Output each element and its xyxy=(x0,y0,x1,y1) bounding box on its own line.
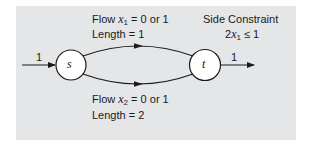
upper-arc-length-label: Length = 1 xyxy=(92,28,144,41)
input-flow-label: 1 xyxy=(36,51,42,64)
lower-arc-flow-label: Flow x2 = 0 or 1 xyxy=(92,93,169,109)
upper-arc-flow-label: Flow x1 = 0 or 1 xyxy=(92,13,169,29)
lower-arc-arrow-icon xyxy=(134,81,143,87)
side-constraint-title: Side Constraint xyxy=(203,13,278,26)
lower-arc-length-label: Length = 2 xyxy=(92,109,144,122)
node-t-label: t xyxy=(202,58,205,71)
node-s-label: s xyxy=(67,58,72,71)
output-flow-label: 1 xyxy=(231,51,237,64)
side-constraint-expression: 2x1 ≤ 1 xyxy=(225,28,259,44)
upper-arc-arrow-icon xyxy=(134,43,143,49)
